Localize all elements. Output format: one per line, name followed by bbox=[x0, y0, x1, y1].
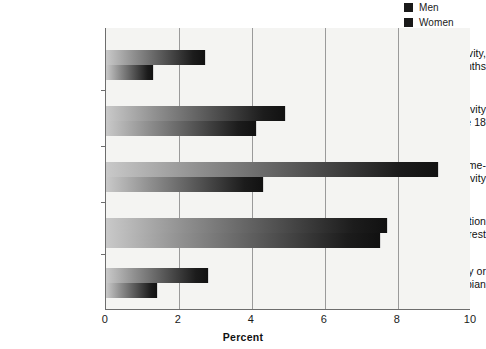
bar-chart: Men Women Same-sex activity, last 12 mon… bbox=[0, 0, 486, 349]
x-tick-label-6: 6 bbox=[321, 313, 327, 325]
bar-women-0 bbox=[106, 65, 154, 80]
bar-group-2 bbox=[106, 162, 470, 192]
x-tick-label-4: 4 bbox=[248, 313, 254, 325]
x-tick-label-10: 10 bbox=[464, 313, 477, 325]
bar-men-4 bbox=[106, 268, 209, 283]
bar-group-3 bbox=[106, 218, 470, 248]
bar-women-4 bbox=[106, 283, 158, 298]
x-tick-label-2: 2 bbox=[175, 313, 181, 325]
bar-group-4 bbox=[106, 268, 470, 298]
legend-item-men: Men bbox=[404, 1, 484, 14]
bar-group-0 bbox=[106, 50, 470, 80]
bar-men-3 bbox=[106, 218, 388, 233]
x-axis-title: Percent bbox=[0, 331, 486, 343]
legend-label-men: Men bbox=[419, 3, 439, 13]
legend-label-women: Women bbox=[419, 18, 454, 28]
x-tick-label-8: 8 bbox=[394, 313, 400, 325]
legend-swatch-men bbox=[404, 3, 413, 12]
x-tick-label-0: 0 bbox=[102, 313, 108, 325]
plot-area bbox=[105, 28, 470, 310]
plot-inner bbox=[106, 28, 470, 309]
bar-women-2 bbox=[106, 177, 264, 192]
y-axis-tick-0 bbox=[101, 90, 106, 91]
bar-group-1 bbox=[106, 106, 470, 136]
bar-men-2 bbox=[106, 162, 439, 177]
y-axis-tick-3 bbox=[101, 254, 106, 255]
bar-women-1 bbox=[106, 121, 257, 136]
legend-swatch-women bbox=[404, 18, 413, 27]
y-axis-tick-1 bbox=[101, 146, 106, 147]
bar-women-3 bbox=[106, 233, 381, 248]
chart-legend: Men Women bbox=[404, 1, 484, 31]
bar-men-1 bbox=[106, 106, 286, 121]
y-axis-tick-2 bbox=[101, 202, 106, 203]
bar-men-0 bbox=[106, 50, 206, 65]
